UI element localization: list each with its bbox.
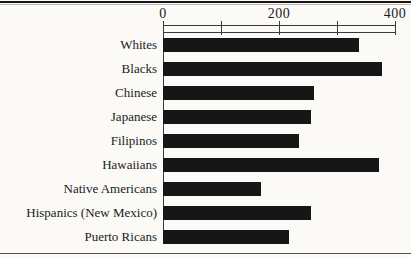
x-axis-tick: [221, 21, 222, 35]
bar: [163, 110, 311, 124]
x-axis-tick: [337, 21, 338, 35]
x-axis-tick-label: 200: [268, 7, 291, 21]
category-label: Filipinos: [0, 134, 157, 148]
bar: [163, 158, 379, 172]
category-label: Japanese: [0, 110, 157, 124]
bar: [163, 38, 359, 52]
bar-chart: 0200400WhitesBlacksChineseJapaneseFilipi…: [0, 0, 411, 257]
bar: [163, 86, 314, 100]
category-label: Puerto Ricans: [0, 230, 157, 244]
bar: [163, 206, 311, 220]
category-label: Blacks: [0, 62, 157, 76]
x-axis-tick-label: 0: [159, 7, 167, 21]
scanned-chart-page: 0200400WhitesBlacksChineseJapaneseFilipi…: [0, 0, 411, 257]
category-label: Whites: [0, 38, 157, 52]
x-axis-tick: [279, 21, 280, 35]
category-label: Chinese: [0, 86, 157, 100]
category-label: Hispanics (New Mexico): [0, 206, 157, 220]
bar: [163, 230, 289, 244]
bar: [163, 134, 299, 148]
category-label: Native Americans: [0, 182, 157, 196]
x-axis-tick: [395, 21, 396, 35]
x-axis-tick-label: 400: [384, 7, 407, 21]
category-label: Hawaiians: [0, 158, 157, 172]
bar: [163, 62, 382, 76]
bar: [163, 182, 261, 196]
bottom-rule-line: [0, 253, 411, 254]
